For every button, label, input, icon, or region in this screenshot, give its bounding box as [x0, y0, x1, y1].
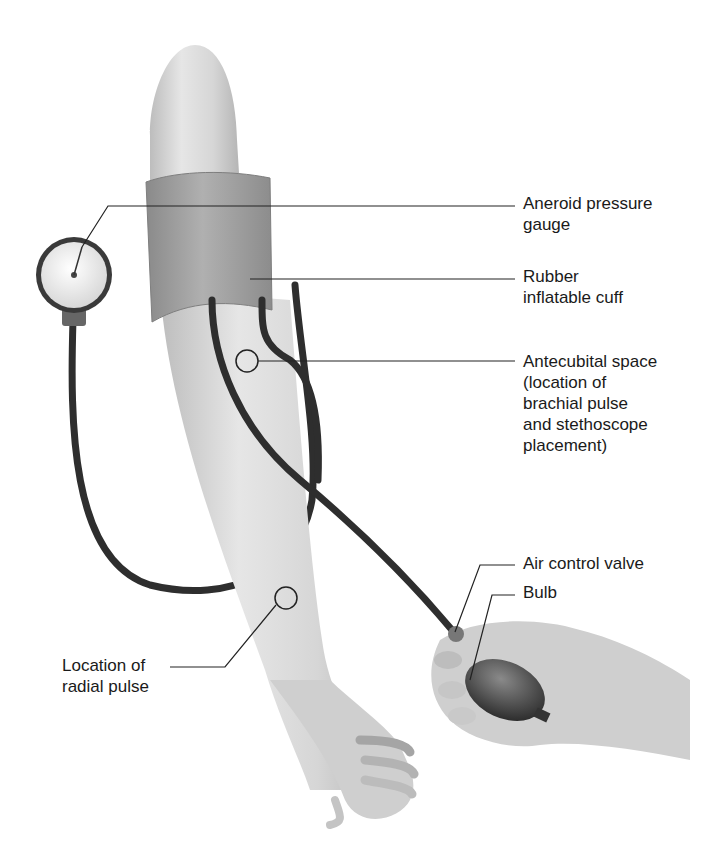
aneroid-gauge — [36, 237, 112, 326]
label-bulb: Bulb — [523, 582, 557, 603]
label-air-control-valve: Air control valve — [523, 553, 644, 574]
label-radial-pulse: Location of radial pulse — [62, 655, 149, 697]
label-rubber-inflatable-cuff: Rubber inflatable cuff — [523, 266, 623, 308]
upper-arm — [150, 45, 240, 190]
label-antecubital-space: Antecubital space (location of brachial … — [523, 351, 657, 456]
label-aneroid-pressure-gauge: Aneroid pressure gauge — [523, 193, 652, 235]
patient-hand — [270, 680, 413, 819]
